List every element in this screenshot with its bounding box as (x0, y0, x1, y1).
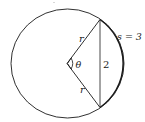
label-radius-lower: r (80, 84, 86, 95)
angle-arc (68, 58, 72, 70)
speck (54, 2, 55, 3)
label-chord: 2 (103, 59, 109, 70)
label-angle: θ (76, 59, 82, 70)
circle-arc-diagram: r r θ 2 s = 3 (0, 0, 145, 122)
angle-marker (71, 58, 73, 69)
label-arc: s = 3 (117, 31, 142, 42)
label-radius-upper: r (79, 33, 85, 44)
